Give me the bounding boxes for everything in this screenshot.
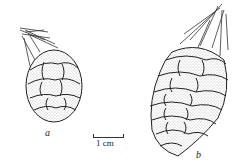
cone-b-label: b xyxy=(196,149,201,160)
cone-b-icon xyxy=(150,48,228,157)
cone-a-icon xyxy=(26,50,82,122)
cone-a-label: a xyxy=(45,127,50,138)
cone-illustration xyxy=(0,0,243,165)
scale-bar-label: 1 cm xyxy=(96,138,114,148)
